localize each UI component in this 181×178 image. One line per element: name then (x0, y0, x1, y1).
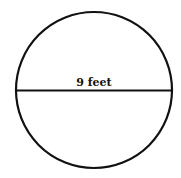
circle-diagram: 9 feet (0, 0, 181, 178)
diameter-label: 9 feet (76, 76, 112, 89)
